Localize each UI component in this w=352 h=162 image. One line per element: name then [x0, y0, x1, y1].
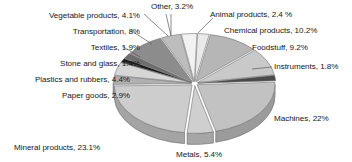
pie-chart-figure: Vegetable products, 4.1% Transportation,…: [0, 0, 352, 162]
leader-line-vegetable-products: [144, 14, 168, 36]
slice-label-transportation: Transportation, 8%: [0, 27, 140, 36]
slice-label-foodstuff: Foodstuff, 9.2%: [252, 43, 352, 52]
slice-label-plastics-and-rubbers: Plastics and rubbers, 4.4%: [0, 75, 130, 84]
slice-label-paper-goods: Paper goods, 2.9%: [0, 91, 130, 100]
leader-line-animal-products: [198, 18, 213, 33]
slice-label-metals: Metals, 5.4%: [176, 150, 286, 159]
slice-label-vegetable-products: Vegetable products, 4.1%: [0, 11, 140, 20]
leader-line-other: [166, 14, 171, 36]
pie-slice-side: [187, 132, 213, 144]
slice-label-animal-products: Animal products, 2.4 %: [210, 10, 352, 19]
slice-label-mineral-products: Mineral products, 23.1%: [14, 143, 154, 152]
slice-label-stone-and-glass: Stone and glass, 1.4%: [0, 59, 140, 68]
slice-label-textiles: Textiles, 1.9%: [0, 43, 140, 52]
slice-label-chemical-products: Chemical products, 10.2%: [224, 26, 352, 35]
slice-label-instruments: Instruments, 1.8%: [274, 62, 352, 71]
slice-label-other: Other, 3.2%: [132, 2, 212, 11]
slice-label-machines: Machines, 22%: [274, 114, 352, 123]
